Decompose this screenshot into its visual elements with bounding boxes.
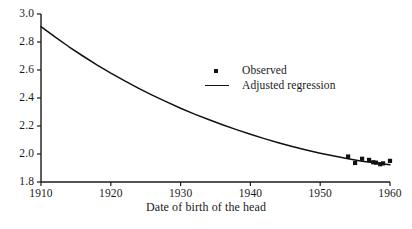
legend-label-observed: Observed [235,64,287,76]
observed-point-marker [360,157,364,161]
adjusted-regression-curve [41,27,390,165]
chart-legend: Observed Adjusted regression [203,62,363,92]
legend-item-adjusted-regression: Adjusted regression [203,77,363,92]
chart-figure: 1.82.02.22.42.62.83.0 191019201930194019… [0,0,412,229]
y-tick-label: 2.4 [2,92,34,104]
observed-point-marker [353,161,357,165]
observed-point-marker [374,161,378,165]
x-tick-label: 1930 [169,188,192,200]
observed-point-marker [346,154,350,158]
y-tick-label: 2.8 [2,36,34,48]
x-tick-label: 1940 [239,188,262,200]
x-tick-label: 1950 [308,188,331,200]
y-tick-label: 2.2 [2,120,34,132]
y-tick-label: 2.0 [2,148,34,160]
x-tick-label: 1920 [99,188,122,200]
legend-label-adjusted-regression: Adjusted regression [235,79,336,91]
square-marker-icon [203,63,235,77]
y-tick-label: 2.6 [2,64,34,76]
y-tick-label: 3.0 [2,8,34,20]
line-marker-icon [203,78,235,92]
x-axis-title: Date of birth of the head [0,200,412,215]
plot-canvas [0,0,412,229]
observed-point-marker [388,159,392,163]
legend-item-observed: Observed [203,62,363,77]
x-tick-label: 1960 [378,188,401,200]
x-tick-label: 1910 [29,188,52,200]
observed-point-marker [381,161,385,165]
observed-point-marker [367,158,371,162]
